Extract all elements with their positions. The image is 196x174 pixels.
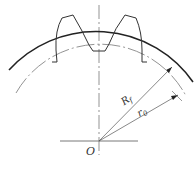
radius-line-pitch (99, 95, 178, 141)
gear-diagram: O Rf r0 (0, 0, 196, 174)
label-center-o: O (86, 145, 95, 158)
radius-line-outer (99, 67, 172, 141)
outer-circle-arc (9, 31, 193, 82)
gear-tooth-left (52, 15, 147, 62)
pitch-circle-arc (16, 44, 186, 96)
